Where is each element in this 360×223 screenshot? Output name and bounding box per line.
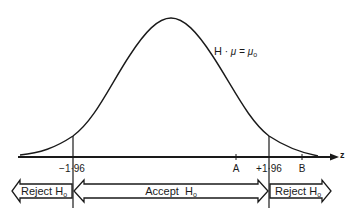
reject-left-text: Reject H (21, 185, 63, 197)
tick-label-neg196: −1·96 (59, 163, 85, 174)
reject-right-text: Reject H (275, 185, 317, 197)
reject-right-label: Reject Ho (275, 185, 321, 197)
normal-curve (20, 18, 318, 156)
curve-label-sub: o (253, 51, 257, 58)
tick-label-b: B (299, 163, 306, 174)
accept-sub: o (193, 191, 197, 198)
reject-left-sub: o (63, 191, 67, 198)
reject-right-sub: o (317, 191, 321, 198)
tick-label-a: A (233, 163, 240, 174)
axis-variable-label: z (340, 150, 345, 160)
curve-label: H · μ = μo (214, 45, 257, 57)
curve-label-eq: μ = μ (231, 46, 253, 57)
reject-left-label: Reject Ho (21, 185, 67, 197)
accept-text: Accept H (145, 185, 193, 197)
curve-label-sep: · (225, 46, 228, 57)
tick-label-pos196: +1·96 (256, 163, 282, 174)
z-axis-arrowhead (330, 154, 339, 161)
curve-label-h: H (214, 45, 222, 57)
accept-label: Accept Ho (145, 185, 197, 197)
